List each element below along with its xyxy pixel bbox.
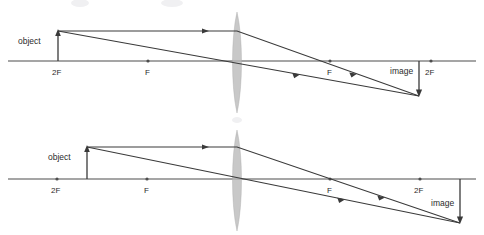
optics-ray-diagram-svg: object image 2F F F 2F	[0, 0, 484, 235]
ray-diagram-figure: object image 2F F F 2F	[0, 0, 484, 235]
double-focal-point-dot-right	[418, 177, 421, 180]
parallel-ray-arrow-head-1	[202, 144, 209, 149]
object-arrow-head	[84, 145, 90, 152]
marker-label-2f-right: 2F	[425, 68, 434, 77]
marker-label-f-left: F	[144, 186, 149, 195]
marker-label-f-left: F	[145, 68, 150, 77]
parallel-ray-arrow-head-1	[202, 28, 209, 33]
image-label: image	[390, 66, 413, 76]
marker-label-2f-right: 2F	[414, 186, 423, 195]
object-label: object	[18, 36, 41, 46]
top-diagram: object image 2F F F 2F	[8, 12, 476, 113]
image-label: image	[431, 198, 454, 208]
bottom-diagram: object image 2F F F 2F	[8, 130, 476, 231]
marker-label-2f-left: 2F	[52, 68, 61, 77]
marker-label-f-right: F	[327, 68, 332, 77]
focal-point-dot-left	[145, 177, 148, 180]
marker-label-f-right: F	[327, 186, 332, 195]
object-label: object	[48, 152, 71, 162]
double-focal-point-dot-right	[429, 59, 432, 62]
scan-artifact	[71, 0, 89, 7]
center-ray	[87, 147, 460, 223]
marker-label-2f-left: 2F	[51, 186, 60, 195]
scan-artifact	[161, 0, 183, 7]
focal-point-dot-right	[328, 59, 331, 62]
scan-artifact	[232, 117, 242, 123]
converging-lens	[233, 130, 242, 231]
double-focal-point-dot-left	[55, 177, 58, 180]
object-arrow-head	[55, 29, 61, 36]
focal-point-dot-left	[146, 59, 149, 62]
